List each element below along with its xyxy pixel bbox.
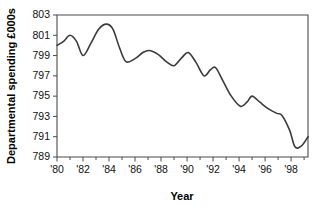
x-tick-label: '86	[128, 163, 142, 175]
x-tick-label: '92	[206, 163, 220, 175]
data-series-line	[57, 24, 308, 148]
y-tick-label: 797	[32, 69, 50, 81]
chart-canvas: 789791793795797799801803 '80'82'84'86'88…	[0, 0, 326, 206]
y-tick-label: 793	[32, 110, 50, 122]
x-axis: '80'82'84'86'88'90'92'94'96'98	[50, 157, 304, 175]
x-tick-label: '82	[76, 163, 90, 175]
x-tick-label: '90	[180, 163, 194, 175]
x-tick-label: '94	[232, 163, 246, 175]
y-tick-label: 791	[32, 130, 50, 142]
y-tick-label: 801	[32, 29, 50, 41]
y-tick-label: 795	[32, 89, 50, 101]
x-tick-label: '84	[102, 163, 116, 175]
y-tick-label: 803	[32, 8, 50, 20]
y-tick-label: 789	[32, 150, 50, 162]
y-axis: 789791793795797799801803	[32, 8, 57, 162]
line-chart: 789791793795797799801803 '80'82'84'86'88…	[0, 0, 326, 206]
x-axis-title: Year	[170, 190, 194, 202]
x-tick-label: '88	[154, 163, 168, 175]
x-tick-label: '80	[50, 163, 64, 175]
y-axis-title: Departmental spending £000s	[5, 8, 17, 164]
y-tick-label: 799	[32, 49, 50, 61]
x-tick-label: '96	[258, 163, 272, 175]
x-tick-label: '98	[284, 163, 298, 175]
